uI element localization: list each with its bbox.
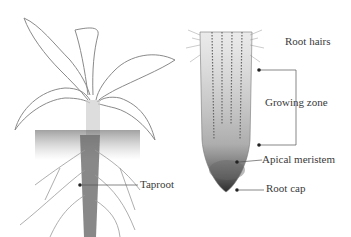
label-root-hairs: Root hairs [285,35,331,47]
apical-meristem-region [209,160,245,180]
label-root-cap: Root cap [266,182,305,194]
lateral-roots [20,150,140,237]
growing-zone-bottom-marker [257,143,261,147]
taproot-shape [80,135,100,237]
apical-meristem-marker [235,160,239,164]
plant-stem [86,100,100,135]
label-growing-zone: Growing zone [265,96,328,108]
root-cap-marker [235,188,239,192]
label-taproot: Taproot [140,178,174,190]
label-apical-meristem: Apical meristem [262,153,335,165]
taproot-marker [78,183,82,187]
growing-zone-top-marker [257,68,261,72]
